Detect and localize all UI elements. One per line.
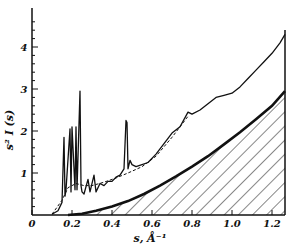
svg-text:0.6: 0.6	[143, 218, 160, 229]
x-tick-labels: 00.20.40.60.81.01.2	[29, 218, 281, 229]
svg-text:0: 0	[29, 218, 36, 229]
y-axis-title: s² I (s)	[3, 110, 16, 150]
svg-text:1: 1	[21, 168, 28, 179]
y-axis-ticks	[32, 22, 38, 207]
hatched-area	[68, 91, 285, 215]
svg-text:1.2: 1.2	[263, 218, 280, 229]
x-axis-title: s, Å⁻¹	[133, 231, 166, 245]
svg-text:0.2: 0.2	[63, 218, 80, 229]
svg-text:4: 4	[21, 42, 28, 53]
svg-text:0.4: 0.4	[103, 218, 120, 229]
svg-text:2: 2	[20, 126, 28, 137]
y-tick-labels: 1234	[20, 42, 28, 179]
svg-text:3: 3	[21, 84, 28, 95]
chart: 00.20.40.60.81.01.2 1234 s, Å⁻¹ s² I (s)	[0, 0, 290, 246]
svg-text:1.0: 1.0	[223, 218, 240, 229]
svg-text:0.8: 0.8	[183, 218, 200, 229]
